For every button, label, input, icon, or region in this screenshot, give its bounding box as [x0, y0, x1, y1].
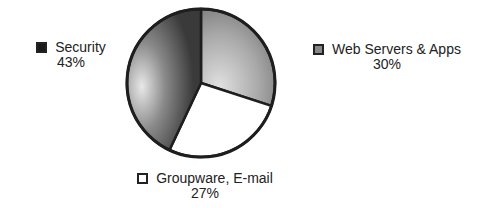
legend-groupware: Groupware, E-mail 27%: [130, 171, 280, 201]
legend-security-pct: 43%: [26, 55, 116, 70]
security-swatch-icon: [36, 42, 47, 53]
legend-group-pct: 27%: [130, 186, 280, 201]
legend-security-label: Security: [55, 40, 106, 55]
groupware-swatch-icon: [137, 173, 148, 184]
pie: [127, 9, 275, 157]
web-servers-swatch-icon: [313, 44, 324, 55]
legend-web-servers: Web Servers & Apps 30%: [302, 42, 472, 72]
legend-security: Security 43%: [26, 40, 116, 70]
legend-web-label: Web Servers & Apps: [332, 42, 461, 57]
legend-group-label: Groupware, E-mail: [156, 171, 273, 186]
legend-web-pct: 30%: [302, 57, 472, 72]
